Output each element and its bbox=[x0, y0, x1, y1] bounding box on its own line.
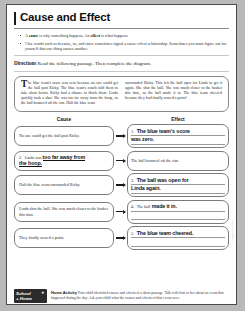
passage-column-1: The blue team's score was zero because n… bbox=[21, 81, 118, 107]
worksheet-content: Cause and Effect A cause is why somethin… bbox=[14, 11, 229, 250]
effect-answer: The blue team's score bbox=[137, 128, 190, 134]
effect-answer-line-2[interactable] bbox=[131, 212, 225, 221]
effect-answer-line[interactable]: 3. The ball was open for bbox=[131, 177, 225, 186]
home-activity-label: Home Activity bbox=[51, 290, 77, 295]
directions-label: Directions bbox=[14, 60, 36, 66]
cause-text: No one could get the ball past Ricky. bbox=[19, 133, 79, 138]
effect-cell[interactable]: The ball bounced off the rim. bbox=[127, 151, 229, 171]
cause-cell[interactable]: They finally scored a point. bbox=[14, 228, 114, 248]
home-activity-text: Home Activity Your child identified caus… bbox=[51, 289, 229, 301]
header-spacer bbox=[114, 117, 127, 122]
header-cause: Cause bbox=[14, 117, 114, 122]
effect-answer-cont: was zero. bbox=[131, 136, 154, 142]
page-title: Cause and Effect bbox=[20, 11, 110, 24]
arrow-icon bbox=[114, 159, 127, 163]
effect-answer-line-2[interactable]: was zero. bbox=[131, 136, 225, 145]
home-activity-body: Your child identified causes and effects… bbox=[51, 291, 224, 300]
directions-text: Read the following passage. Then complet… bbox=[38, 61, 152, 66]
passage-box: The blue team's score was zero because n… bbox=[14, 76, 229, 112]
title-divider bbox=[14, 28, 229, 29]
logo-line-2: + Home bbox=[16, 296, 47, 301]
passage-columns: The blue team's score was zero because n… bbox=[21, 81, 222, 107]
page-title-row: Cause and Effect bbox=[14, 11, 229, 25]
arrow-icon bbox=[114, 210, 127, 214]
cause-cell[interactable]: 2.Linda was too far away fromthe hoop. bbox=[14, 151, 114, 171]
directions-row: Directions Read the following passage. T… bbox=[14, 60, 229, 67]
cause-text: They finally scored a point. bbox=[19, 235, 64, 240]
header-effect: Effect bbox=[127, 117, 229, 122]
effect-number: 1. bbox=[131, 129, 134, 134]
bullet-bold-cause: cause bbox=[29, 33, 39, 38]
cause-cell[interactable]: Half the blue team surrounded Ricky. bbox=[14, 175, 114, 195]
effect-text: The ball bounced off the rim. bbox=[131, 158, 225, 163]
effect-cell[interactable]: 1. The blue team's score was zero. bbox=[127, 124, 229, 148]
bullet-mid: is why something happens. An bbox=[38, 33, 90, 38]
diagram-headers: Cause Effect bbox=[14, 117, 229, 122]
bullet-item: A cause is why something happens. An eff… bbox=[25, 33, 229, 38]
diagram-row: No one could get the ball past Ricky. 1.… bbox=[14, 124, 229, 148]
bullet-post: is what happens. bbox=[100, 33, 128, 38]
effect-answer: The blue team cheered. bbox=[137, 230, 194, 236]
effect-answer-line[interactable]: 5. The blue team cheered. bbox=[131, 230, 225, 239]
effect-cell[interactable]: 4. The ball made it in. bbox=[127, 200, 229, 224]
passage-dropcap: T bbox=[21, 81, 28, 89]
passage-column-2: surrounded Ricky. This left the ball ope… bbox=[125, 81, 222, 102]
arrow-icon bbox=[114, 236, 127, 240]
effect-number: 3. bbox=[131, 178, 134, 183]
effect-prefix: The ball bbox=[137, 204, 151, 209]
effect-answer-line-2[interactable] bbox=[131, 238, 225, 247]
worksheet-page: Cause and Effect A cause is why somethin… bbox=[6, 4, 237, 305]
bullet-item: Clue words such as because, so, and sinc… bbox=[25, 41, 229, 52]
diagram-row: Half the blue team surrounded Ricky. 3. … bbox=[14, 173, 229, 197]
cause-text: 2.Linda was too far away fromthe hoop. bbox=[19, 155, 85, 166]
arrow-icon bbox=[114, 183, 127, 187]
definition-bullets: A cause is why something happens. An eff… bbox=[14, 33, 229, 52]
passage-text-1: he blue team's score was zero because no… bbox=[21, 81, 118, 106]
cause-cell[interactable]: No one could get the ball past Ricky. bbox=[14, 126, 114, 146]
cause-text: Linda shot the ball. She was much closer… bbox=[19, 206, 109, 217]
effect-cell[interactable]: 5. The blue team cheered. bbox=[127, 226, 229, 250]
arrow-icon bbox=[114, 134, 127, 138]
side-label: Cause and Effect bbox=[231, 220, 234, 241]
bullet-text: Clue words such as because, so, and sinc… bbox=[25, 41, 226, 51]
bullet-bold-effect: effect bbox=[91, 33, 101, 38]
effect-answer-cont: Linda again. bbox=[131, 185, 161, 191]
diagram-row: They finally scored a point. 5. The blue… bbox=[14, 226, 229, 250]
effect-number: 4. bbox=[131, 204, 134, 209]
cause-answer: too far away from bbox=[43, 154, 85, 161]
cause-cell[interactable]: Linda shot the ball. She was much closer… bbox=[14, 202, 114, 222]
effect-answer: The ball was open for bbox=[137, 177, 189, 183]
directions-divider bbox=[14, 71, 229, 72]
star-icon: ★ bbox=[41, 290, 45, 295]
effect-answer: made it in. bbox=[152, 203, 177, 209]
cause-text: Half the blue team surrounded Ricky. bbox=[19, 182, 80, 187]
cause-answer-cont: the hoop. bbox=[19, 160, 42, 167]
footer: ★ School + Home Home Activity Your child… bbox=[14, 289, 229, 303]
effect-number: 5. bbox=[131, 231, 134, 236]
effect-cell[interactable]: 3. The ball was open for Linda again. bbox=[127, 173, 229, 197]
bullets-divider bbox=[14, 55, 229, 56]
effect-answer-line-2[interactable]: Linda again. bbox=[131, 185, 225, 194]
effect-answer-line[interactable]: 4. The ball made it in. bbox=[131, 203, 225, 212]
effect-answer-line[interactable]: 1. The blue team's score bbox=[131, 128, 225, 137]
school-home-logo: ★ School + Home bbox=[14, 289, 47, 303]
title-rule bbox=[14, 12, 16, 25]
diagram-row: Linda shot the ball. She was much closer… bbox=[14, 200, 229, 224]
diagram-row: 2.Linda was too far away fromthe hoop. T… bbox=[14, 151, 229, 171]
